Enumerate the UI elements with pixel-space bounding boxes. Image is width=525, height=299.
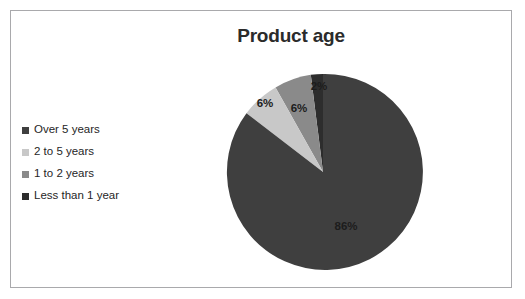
pie-label-over-5-years: 86% [334, 220, 357, 232]
chart-frame: Product age Over 5 years 2 to 5 years 1 … [10, 10, 512, 288]
pie-label-less-than-1-year: 2% [311, 80, 328, 92]
pie-chart-svg: 2% 6% 6% 86% [11, 11, 513, 289]
pie-label-2-to-5-years: 6% [257, 97, 274, 109]
pie-label-1-to-2-years: 6% [291, 102, 308, 114]
pie-plot-area: 2% 6% 6% 86% [11, 11, 513, 289]
